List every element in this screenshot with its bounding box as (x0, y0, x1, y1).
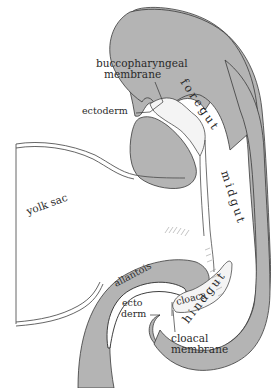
label-yolk-sac: yolk sac (24, 191, 69, 217)
label-midgut: midgut (218, 169, 249, 227)
midgut-ventral-line (200, 156, 204, 236)
yolk-sac-wall-bottom (16, 282, 100, 322)
label-ectoderm-top: ectoderm (82, 105, 128, 116)
cloacal-membrane-leader (173, 310, 175, 332)
label-buccopharyngeal-membrane: membrane (104, 68, 161, 80)
yolk-sac-wall-top-inner (16, 146, 134, 179)
label-ectoderm-bottom-2: derm (121, 308, 146, 319)
midgut-dorsal-line (205, 140, 214, 272)
label-ectoderm-bottom-1: ecto (122, 297, 143, 308)
embryo-gut-diagram: buccopharyngeal membrane ectoderm foregu… (0, 0, 280, 388)
label-cloacal-membrane: membrane (171, 343, 228, 355)
